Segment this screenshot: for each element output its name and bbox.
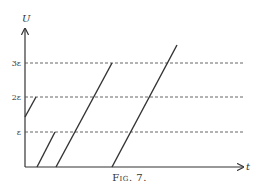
y-axis-label: U: [22, 13, 31, 24]
figure-canvas: ε2ε3ε U t: [0, 0, 259, 195]
x-axis-label: t: [246, 161, 251, 172]
trajectory-segment: [56, 63, 112, 167]
level-label: ε: [17, 128, 21, 137]
figure-caption: Fig. 7.: [0, 172, 259, 183]
trajectory-segment: [37, 132, 55, 167]
trajectory-segment: [25, 97, 36, 117]
level-label: 3ε: [12, 59, 21, 68]
level-label: 2ε: [12, 93, 21, 102]
